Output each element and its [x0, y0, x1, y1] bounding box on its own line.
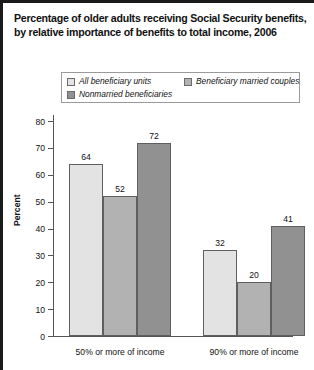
legend-label-0: All beneficiary units — [79, 77, 151, 86]
bar-value-label: 72 — [149, 131, 159, 141]
y-axis-line — [53, 115, 54, 337]
legend-label-1: Beneficiary married couples — [196, 77, 299, 86]
legend-swatch-icon-1 — [184, 78, 192, 86]
plot-area: 01020304050607080 645272322041 50% or mo… — [53, 115, 293, 337]
y-axis-title: Percent — [12, 194, 22, 226]
y-axis-tick-label: 80 — [35, 117, 45, 127]
chart-title-line-2: by relative importance of benefits to to… — [14, 26, 310, 40]
y-axis-tick: 70 — [48, 148, 53, 149]
chart-title: Percentage of older adults receiving Soc… — [14, 12, 310, 39]
bar — [103, 196, 137, 336]
x-axis-category-label: 50% or more of income — [76, 347, 165, 357]
chart-figure: Percentage of older adults receiving Soc… — [0, 0, 314, 370]
x-axis-line — [53, 336, 293, 337]
bar — [271, 226, 305, 336]
bar-value-label: 32 — [215, 238, 225, 248]
y-axis-tick-label: 10 — [35, 305, 45, 315]
chart-legend: All beneficiary units Beneficiary marrie… — [61, 72, 300, 103]
legend-item-nonmarried-beneficiaries: Nonmarried beneficiaries — [67, 90, 172, 99]
legend-swatch-icon-2 — [67, 91, 75, 99]
legend-item-all-beneficiary-units: All beneficiary units — [67, 77, 151, 86]
chart-title-line-1: Percentage of older adults receiving Soc… — [14, 12, 310, 26]
bar — [69, 164, 103, 336]
y-axis-tick-label: 40 — [35, 224, 45, 234]
y-axis-tick-label: 20 — [35, 278, 45, 288]
y-axis-tick-label: 50 — [35, 197, 45, 207]
y-axis-tick: 10 — [48, 309, 53, 310]
y-axis-tick: 30 — [48, 255, 53, 256]
y-axis-tick: 20 — [48, 282, 53, 283]
y-axis-tick-label: 0 — [40, 332, 45, 342]
bar-value-label: 20 — [249, 270, 259, 280]
y-axis-tick-label: 30 — [35, 251, 45, 261]
x-axis-category-label: 90% or more of income — [210, 347, 299, 357]
bar — [237, 282, 271, 336]
bar — [137, 143, 171, 337]
y-axis-tick: 60 — [48, 175, 53, 176]
bar-value-label: 52 — [115, 184, 125, 194]
y-axis-tick: 50 — [48, 202, 53, 203]
legend-item-beneficiary-married-couples: Beneficiary married couples — [184, 77, 299, 86]
y-axis-tick: 40 — [48, 229, 53, 230]
y-axis-tick-label: 60 — [35, 170, 45, 180]
y-axis-tick: 80 — [48, 121, 53, 122]
y-axis-tick-label: 70 — [35, 143, 45, 153]
legend-label-2: Nonmarried beneficiaries — [79, 90, 172, 99]
legend-swatch-icon-0 — [67, 78, 75, 86]
bar-value-label: 41 — [283, 214, 293, 224]
bar-value-label: 64 — [81, 152, 91, 162]
bar — [203, 250, 237, 336]
y-axis-tick: 0 — [48, 336, 53, 337]
